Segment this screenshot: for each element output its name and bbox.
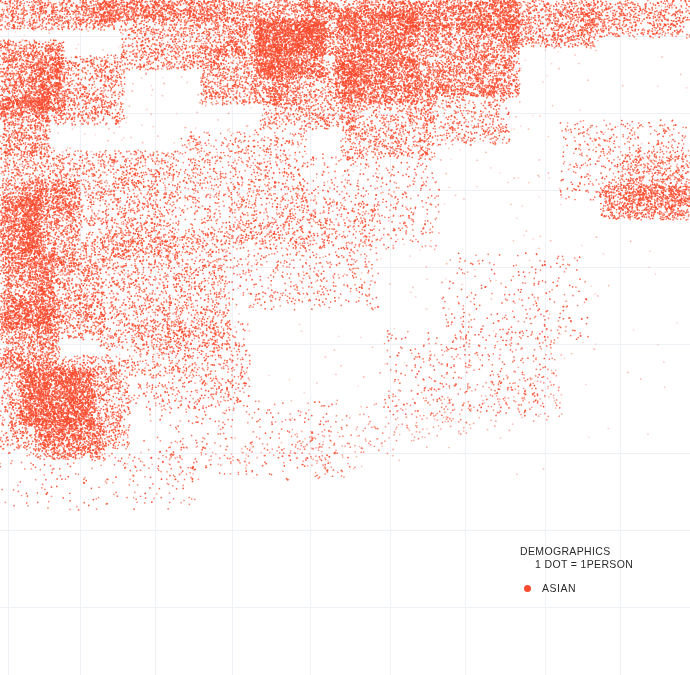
- map-legend: DEMOGRAPHICS 1 DOT = 1PERSON ASIAN: [520, 545, 680, 594]
- legend-title: DEMOGRAPHICS: [520, 545, 680, 558]
- legend-item-label: ASIAN: [542, 582, 576, 594]
- legend-subtitle: 1 DOT = 1PERSON: [535, 558, 680, 571]
- legend-item-asian[interactable]: ASIAN: [520, 582, 680, 594]
- dot-density-map: DEMOGRAPHICS 1 DOT = 1PERSON ASIAN: [0, 0, 690, 675]
- dot-swatch-icon: [524, 585, 531, 592]
